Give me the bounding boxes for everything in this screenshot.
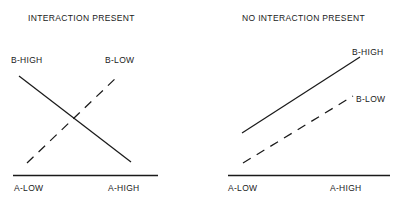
panel-interaction-present: INTERACTION PRESENT B-HIGH B-LOW A-LOW A… (0, 0, 200, 207)
series-label-b-high: B-HIGH (352, 47, 384, 57)
series-line-b-high (242, 57, 360, 133)
axis-label-a-low: A-LOW (14, 183, 43, 193)
series-line-b-high (19, 76, 131, 162)
axis-label-a-low: A-LOW (228, 183, 257, 193)
axis-label-a-high: A-HIGH (330, 183, 362, 193)
series-line-b-low (243, 96, 353, 163)
series-label-b-low: B-LOW (356, 94, 385, 104)
series-line-b-low (27, 76, 118, 163)
panel-no-interaction-present: NO INTERACTION PRESENT B-HIGH B-LOW A-LO… (200, 0, 401, 207)
series-label-b-low: B-LOW (105, 55, 134, 65)
axis-label-a-high: A-HIGH (108, 183, 140, 193)
interaction-plot-figure: INTERACTION PRESENT B-HIGH B-LOW A-LOW A… (0, 0, 401, 207)
plot-area-interaction-present (0, 0, 200, 207)
series-label-b-high: B-HIGH (11, 55, 43, 65)
